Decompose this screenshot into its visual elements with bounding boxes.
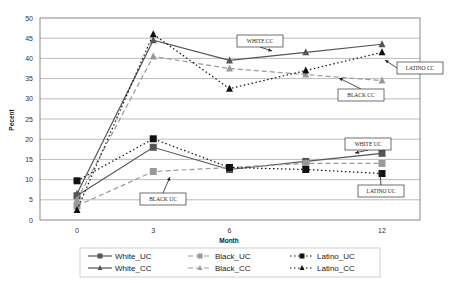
series-lines — [74, 30, 386, 213]
square-marker — [150, 135, 157, 142]
y-tick-label: 15 — [25, 156, 33, 163]
x-tick-label: 6 — [228, 227, 232, 234]
y-axis-ticks: 05101520253035404550 — [25, 15, 33, 224]
line-chart: 05101520253035404550 03612 Pecent Month … — [0, 0, 462, 283]
y-tick-label: 45 — [25, 35, 33, 42]
series-latino-uc — [74, 135, 386, 184]
y-tick-label: 25 — [25, 116, 33, 123]
square-marker — [198, 254, 203, 259]
series-black-cc — [74, 52, 386, 202]
legend-label: White_UC — [115, 252, 152, 261]
triangle-marker — [226, 85, 233, 92]
legend-label: Latino_UC — [317, 252, 355, 261]
square-marker — [150, 168, 157, 175]
y-tick-label: 35 — [25, 75, 33, 82]
square-marker — [302, 166, 309, 173]
triangle-marker — [379, 40, 386, 47]
square-marker — [379, 150, 386, 157]
series-white-uc — [74, 144, 386, 199]
callout-label: BLACK CC — [347, 92, 375, 98]
triangle-marker — [302, 67, 309, 74]
callout-label: LATINO CC — [406, 65, 435, 71]
x-tick-label: 0 — [75, 227, 79, 234]
square-marker — [379, 160, 386, 167]
x-axis-ticks: 03612 — [75, 227, 386, 234]
square-marker — [302, 160, 309, 167]
legend-label: Black_CC — [215, 264, 251, 273]
y-tick-label: 50 — [25, 15, 33, 22]
y-tick-label: 30 — [25, 95, 33, 102]
callout: BLACK UC — [140, 177, 186, 205]
callout: LATINO CC — [385, 60, 443, 74]
legend-label: Latino_CC — [317, 264, 355, 273]
square-marker — [300, 254, 305, 259]
callout-label: WHITE UC — [355, 141, 382, 147]
callout: BLACK CC — [338, 78, 384, 101]
triangle-marker — [379, 48, 386, 55]
x-tick-label: 3 — [151, 227, 155, 234]
callout: WHITE CC — [237, 35, 283, 52]
legend-label: White_CC — [115, 264, 152, 273]
callout-label: LATINO UC — [367, 188, 396, 194]
y-tick-label: 20 — [25, 136, 33, 143]
triangle-marker — [379, 77, 386, 84]
x-axis-label: Month — [219, 237, 239, 244]
y-tick-label: 40 — [25, 55, 33, 62]
square-marker — [74, 177, 81, 184]
triangle-marker — [226, 65, 233, 72]
legend: White_UCBlack_UCLatino_UCWhite_CCBlack_C… — [80, 248, 380, 277]
callout-label: WHITE CC — [247, 38, 274, 44]
square-marker — [226, 164, 233, 171]
y-axis-label: Pecent — [8, 109, 15, 131]
triangle-marker — [150, 52, 157, 59]
y-tick-label: 0 — [29, 217, 33, 224]
x-tick-label: 12 — [378, 227, 386, 234]
triangle-marker — [150, 30, 157, 37]
square-marker — [98, 254, 103, 259]
y-tick-label: 5 — [29, 196, 33, 203]
y-tick-label: 10 — [25, 176, 33, 183]
legend-label: Black_UC — [215, 252, 251, 261]
callout-label: BLACK UC — [149, 196, 177, 202]
square-marker — [150, 144, 157, 151]
